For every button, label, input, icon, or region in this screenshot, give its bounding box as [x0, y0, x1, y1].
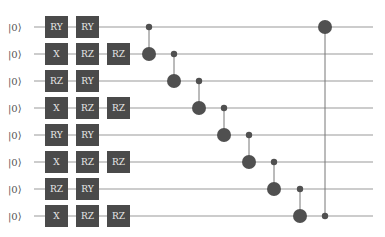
target-gate: [167, 74, 181, 88]
control-dot: [171, 51, 177, 57]
gate-label: RY: [50, 130, 63, 140]
gate-label: X: [53, 157, 60, 167]
qubit-label: |0⟩: [8, 157, 22, 169]
qubit-label: |0⟩: [8, 103, 22, 115]
qubit-label: |0⟩: [8, 211, 22, 223]
gate-label: X: [53, 103, 60, 113]
qubit-label: |0⟩: [8, 130, 22, 142]
gate-label: RY: [81, 130, 94, 140]
gate-label: RZ: [81, 49, 94, 59]
target-gate: [217, 128, 231, 142]
gate-label: RZ: [112, 49, 125, 59]
control-dot: [221, 105, 227, 111]
gate-label: RZ: [81, 103, 94, 113]
gate-label: RY: [81, 76, 94, 86]
gates: RYRYXRZRZRZRYXRZRZRYRYXRZRZRZRYXRZRZ: [45, 16, 130, 227]
gate-label: X: [53, 211, 60, 221]
target-gate: [318, 20, 332, 34]
qubit-label: |0⟩: [8, 184, 22, 196]
control-dot: [246, 132, 252, 138]
target-gate: [293, 209, 307, 223]
gate-label: RY: [81, 184, 94, 194]
qubit-labels: |0⟩|0⟩|0⟩|0⟩|0⟩|0⟩|0⟩|0⟩: [8, 22, 22, 223]
control-dot: [271, 159, 277, 165]
qubit-label: |0⟩: [8, 49, 22, 61]
gate-label: RZ: [112, 157, 125, 167]
target-gate: [142, 47, 156, 61]
qubit-label: |0⟩: [8, 22, 22, 34]
qubit-label: |0⟩: [8, 76, 22, 88]
gate-label: RZ: [81, 211, 94, 221]
target-gate: [192, 101, 206, 115]
control-dot: [297, 186, 303, 192]
gate-label: RZ: [81, 157, 94, 167]
gate-label: RY: [50, 22, 63, 32]
quantum-circuit: |0⟩|0⟩|0⟩|0⟩|0⟩|0⟩|0⟩|0⟩ RYRYXRZRZRZRYXR…: [0, 0, 385, 237]
gate-label: RZ: [112, 211, 125, 221]
gate-label: RZ: [50, 184, 63, 194]
control-dot: [146, 24, 152, 30]
gate-label: RY: [81, 22, 94, 32]
control-dot: [196, 78, 202, 84]
target-gate: [267, 182, 281, 196]
gate-label: RZ: [112, 103, 125, 113]
target-gate: [242, 155, 256, 169]
gate-label: X: [53, 49, 60, 59]
controlled-gates: [142, 20, 332, 223]
gate-label: RZ: [50, 76, 63, 86]
control-dot: [322, 213, 328, 219]
